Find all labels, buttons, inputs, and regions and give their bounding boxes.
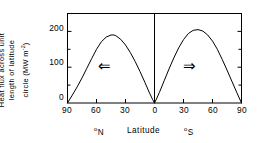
x-axis-label-north: oN	[94, 126, 104, 137]
y-tick-label-0: 0	[38, 92, 64, 102]
x-axis-label-latitude: Latitude	[127, 126, 160, 135]
data-curves	[68, 30, 242, 103]
y-axis-label-line-1: Heat flux across unit	[0, 33, 7, 107]
y-axis-label-lines: Heat flux across unit length of latitude…	[0, 33, 31, 107]
y-axis-label-line-3: circle (MW m-2)	[18, 43, 32, 98]
x-axis-label-south: oS	[184, 126, 194, 137]
x-axis-label-north-text: N	[98, 128, 104, 137]
y-axis-label-units-tail: )	[21, 43, 30, 46]
x-tick-label-0: 0	[146, 105, 164, 115]
axis-tick-marks	[68, 14, 242, 104]
y-tick-label-200: 200	[38, 23, 64, 33]
y-axis-label-units-exponent: -2	[20, 45, 26, 50]
y-axis-label: Heat flux across unit length of latitude…	[0, 10, 36, 130]
northward-flux-arrow-icon: ⇐	[98, 58, 111, 73]
southward-flux-arrow-icon: ⇒	[183, 58, 196, 73]
data-series-north	[68, 35, 155, 103]
x-tick-label-60s: 60	[204, 105, 222, 115]
x-tick-label-90s: 90	[233, 105, 251, 115]
data-series-south	[155, 30, 242, 103]
plot-frame	[68, 14, 242, 104]
x-axis-label-south-text: S	[188, 128, 194, 137]
x-tick-label-30s: 30	[175, 105, 193, 115]
x-tick-label-30n: 30	[116, 105, 134, 115]
y-axis-label-line-2: length of latitude	[7, 40, 18, 101]
chart-figure: Heat flux across unit length of latitude…	[0, 0, 257, 143]
x-tick-label-90n: 90	[58, 105, 76, 115]
x-tick-label-60n: 60	[87, 105, 105, 115]
y-tick-label-100: 100	[38, 57, 64, 67]
y-axis-label-units-base: circle (MW m	[21, 50, 30, 97]
plot-area	[0, 0, 257, 143]
